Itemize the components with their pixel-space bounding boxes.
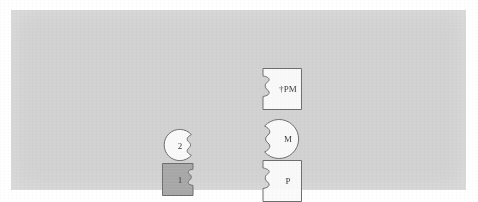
node-2[interactable]: 2 <box>162 129 198 161</box>
node-p[interactable]: P <box>258 160 302 202</box>
node-1-shape <box>162 163 198 196</box>
diagram-panel: †PM M P 2 1 <box>11 10 466 190</box>
node-ppm[interactable]: †PM <box>258 68 302 110</box>
node-m-shape <box>258 119 302 159</box>
node-p-shape <box>258 160 302 202</box>
node-1[interactable]: 1 <box>162 163 198 196</box>
node-m[interactable]: M <box>258 119 302 159</box>
node-ppm-shape <box>258 68 302 110</box>
node-2-shape <box>162 129 198 161</box>
figure-canvas: †PM M P 2 1 <box>0 0 478 202</box>
